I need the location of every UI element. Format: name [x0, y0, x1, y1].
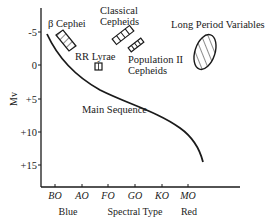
- y-tick-label: +15: [21, 160, 37, 171]
- y-tick-label: +10: [21, 127, 37, 138]
- rr-lyrae-label: RR Lyrae: [75, 51, 116, 62]
- x-tick-label: BO: [48, 190, 61, 201]
- classical-cepheids-region: Classical Cepheids: [100, 5, 139, 45]
- x-tick-label: MO: [179, 190, 196, 201]
- y-axis-title: Mv: [8, 92, 19, 106]
- rr-lyrae-region: RR Lyrae: [75, 51, 116, 70]
- population-ii-label-line2: Cepheids: [128, 65, 167, 76]
- main-sequence-label: Main Sequence: [82, 104, 147, 115]
- y-tick-label: 0: [32, 60, 37, 71]
- x-axis-right-label: Red: [181, 206, 197, 217]
- long-period-variables-label: Long Period Variables: [171, 19, 265, 30]
- x-tick-label: KO: [154, 190, 169, 201]
- y-tick-label: +5: [26, 94, 37, 105]
- x-tick-label: FO: [100, 190, 114, 201]
- y-axis: -5 0 +5 +10 +15 Mv: [8, 8, 41, 187]
- y-tick-label: -5: [28, 27, 37, 38]
- population-ii-cepheids-region: Population II Cepheids: [128, 38, 184, 76]
- x-axis: BO AO FO GO KO MO Blue Spectral Type Red: [41, 184, 240, 217]
- beta-cephei-label: β Cephei: [48, 18, 86, 29]
- variable-stars-hr-diagram: -5 0 +5 +10 +15 Mv BO AO FO GO KO MO Blu…: [0, 0, 268, 222]
- classical-cepheids-label-line2: Cepheids: [100, 16, 139, 27]
- x-axis-title: Spectral Type: [108, 206, 163, 217]
- classical-cepheids-label-line1: Classical: [100, 5, 138, 16]
- x-tick-label: AO: [74, 190, 88, 201]
- population-ii-label-line1: Population II: [128, 54, 184, 65]
- x-tick-label: GO: [128, 190, 142, 201]
- x-axis-left-label: Blue: [59, 206, 78, 217]
- long-period-variables-region: Long Period Variables: [171, 19, 265, 72]
